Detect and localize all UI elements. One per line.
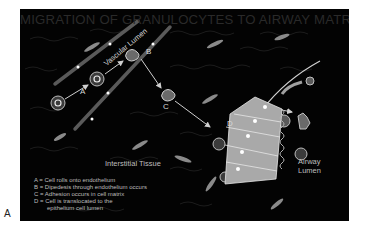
airway-lumen-label-line2: Lumen: [298, 166, 321, 175]
legend-item-a: A = Cell rolls onto endothelium: [34, 177, 147, 184]
diagram-title: MIGRATION OF GRANULOCYTES TO AIRWAY MATR…: [20, 12, 349, 27]
step-marker-b: B: [146, 47, 151, 56]
diagram-panel: MIGRATION OF GRANULOCYTES TO AIRWAY MATR…: [20, 9, 349, 221]
step-marker-a: A: [80, 87, 85, 96]
figure-panel-label: A: [4, 208, 11, 219]
legend-item-d-continued: epithelium cell lumen: [34, 205, 147, 212]
airway-lumen-label-line1: Airway: [298, 157, 321, 166]
step-marker-c: C: [163, 102, 169, 111]
legend-item-c: C = Adhesion occurs in cell matrix: [34, 191, 147, 198]
interstitial-tissue-label: Interstitial Tissue: [105, 159, 161, 168]
legend-item-d: D = Cell is translocated to the: [34, 198, 147, 205]
legend: A = Cell rolls onto endothelium B = Dipe…: [34, 177, 147, 212]
legend-item-b: B = Dipedesis through endothelium occurs: [34, 184, 147, 191]
step-marker-d: D: [227, 119, 233, 128]
